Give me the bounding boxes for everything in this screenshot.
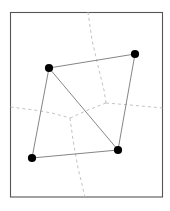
site-point-lower-right: [114, 146, 122, 154]
site-point-lower-left: [28, 154, 36, 162]
bounding-box-frame: [11, 13, 163, 198]
geometry-figure: [0, 0, 170, 211]
figure-container: [0, 0, 170, 211]
site-point-upper-left: [45, 64, 53, 72]
site-point-upper-right: [131, 50, 139, 58]
frame-group: [11, 13, 163, 198]
